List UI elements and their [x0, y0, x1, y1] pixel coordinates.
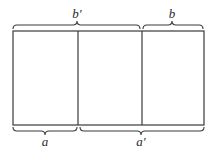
label-b-prime: b′ [72, 6, 82, 21]
outer-rectangle [13, 31, 204, 125]
label-a-prime: a′ [136, 134, 146, 149]
brace-b-prime [13, 21, 140, 29]
rectangle-partition-diagram: b′ b a a′ [0, 0, 216, 155]
label-a: a [42, 134, 49, 149]
brace-b [143, 21, 203, 29]
label-b: b [169, 6, 176, 21]
